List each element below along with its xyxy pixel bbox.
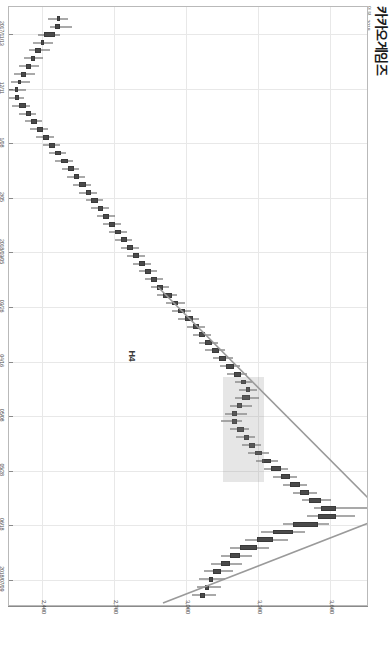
candlestick[interactable] bbox=[8, 237, 367, 242]
candlestick[interactable] bbox=[8, 577, 367, 582]
candlestick[interactable] bbox=[8, 72, 367, 77]
candlestick[interactable] bbox=[8, 230, 367, 235]
candlestick[interactable] bbox=[8, 151, 367, 156]
candlestick[interactable] bbox=[8, 364, 367, 369]
candlestick[interactable] bbox=[8, 474, 367, 479]
candlestick[interactable] bbox=[8, 119, 367, 124]
candle-body bbox=[68, 166, 74, 171]
candlestick[interactable] bbox=[8, 332, 367, 337]
candlestick[interactable] bbox=[8, 466, 367, 471]
candle-body bbox=[281, 474, 291, 479]
candlestick[interactable] bbox=[8, 537, 367, 542]
candlestick[interactable] bbox=[8, 435, 367, 440]
candlestick[interactable] bbox=[8, 64, 367, 69]
candlestick[interactable] bbox=[8, 87, 367, 92]
candlestick[interactable] bbox=[8, 372, 367, 377]
candlestick[interactable] bbox=[8, 32, 367, 37]
candlestick[interactable] bbox=[8, 506, 367, 511]
candle-body bbox=[318, 514, 336, 519]
candlestick[interactable] bbox=[8, 24, 367, 29]
candle-body bbox=[209, 577, 214, 582]
candlestick[interactable] bbox=[8, 395, 367, 400]
candlestick[interactable] bbox=[8, 443, 367, 448]
candlestick[interactable] bbox=[8, 545, 367, 550]
candle-body bbox=[43, 135, 49, 140]
candlestick[interactable] bbox=[8, 261, 367, 266]
candlestick[interactable] bbox=[8, 553, 367, 558]
candlestick[interactable] bbox=[8, 585, 367, 590]
candlestick[interactable] bbox=[8, 522, 367, 527]
candlestick[interactable] bbox=[8, 253, 367, 258]
candlestick[interactable] bbox=[8, 380, 367, 385]
candlestick[interactable] bbox=[8, 80, 367, 85]
candlestick[interactable] bbox=[8, 514, 367, 519]
candlestick[interactable] bbox=[8, 166, 367, 171]
candlestick[interactable] bbox=[8, 143, 367, 148]
candlestick[interactable] bbox=[8, 174, 367, 179]
candle-body bbox=[205, 585, 209, 590]
candlestick[interactable] bbox=[8, 293, 367, 298]
candlestick[interactable] bbox=[8, 277, 367, 282]
candle-body bbox=[309, 498, 321, 503]
candle-body bbox=[151, 277, 157, 282]
candlestick[interactable] bbox=[8, 95, 367, 100]
candlestick[interactable] bbox=[8, 190, 367, 195]
candlestick[interactable] bbox=[8, 348, 367, 353]
candlestick[interactable] bbox=[8, 340, 367, 345]
chart-stage: 카카오게임즈 일봉 · 2018 H43,875.04 최고 2018/04/1… bbox=[0, 0, 392, 672]
candlestick[interactable] bbox=[8, 222, 367, 227]
candlestick[interactable] bbox=[8, 40, 367, 45]
date-tick-label: 12/11 bbox=[0, 82, 5, 94]
candlestick[interactable] bbox=[8, 206, 367, 211]
candlestick[interactable] bbox=[8, 159, 367, 164]
candle-body bbox=[31, 56, 34, 61]
candlestick[interactable] bbox=[8, 411, 367, 416]
candlestick[interactable] bbox=[8, 48, 367, 53]
candlestick[interactable] bbox=[8, 103, 367, 108]
date-tick bbox=[9, 362, 13, 363]
price-tick-label: 2,700 bbox=[113, 600, 119, 614]
candlestick[interactable] bbox=[8, 403, 367, 408]
candlestick[interactable] bbox=[8, 482, 367, 487]
candle-body bbox=[74, 174, 79, 179]
candlestick[interactable] bbox=[8, 419, 367, 424]
candlestick[interactable] bbox=[8, 451, 367, 456]
candlestick[interactable] bbox=[8, 56, 367, 61]
candle-body bbox=[219, 356, 226, 361]
candlestick[interactable] bbox=[8, 387, 367, 392]
candlestick[interactable] bbox=[8, 561, 367, 566]
candle-body bbox=[121, 237, 127, 242]
candlestick[interactable] bbox=[8, 285, 367, 290]
candlestick[interactable] bbox=[8, 427, 367, 432]
date-tick-label: 2017/11/13 bbox=[0, 21, 5, 46]
date-tick-label: 04/16 bbox=[0, 354, 5, 367]
candlestick[interactable] bbox=[8, 214, 367, 219]
consolidation-zone bbox=[223, 377, 264, 482]
candlestick[interactable] bbox=[8, 459, 367, 464]
date-gridline bbox=[9, 362, 367, 363]
candle-body bbox=[199, 332, 205, 337]
candlestick[interactable] bbox=[8, 127, 367, 132]
candlestick[interactable] bbox=[8, 569, 367, 574]
plot-area[interactable]: H43,875.04 최고 2018/04/172,085.2 최저 2018/… bbox=[8, 6, 368, 606]
candlestick[interactable] bbox=[8, 593, 367, 598]
candle-body bbox=[200, 593, 205, 598]
candlestick[interactable] bbox=[8, 16, 367, 21]
candlestick[interactable] bbox=[8, 301, 367, 306]
candle-body bbox=[178, 309, 184, 314]
candlestick[interactable] bbox=[8, 198, 367, 203]
candlestick[interactable] bbox=[8, 316, 367, 321]
candlestick[interactable] bbox=[8, 269, 367, 274]
candlestick[interactable] bbox=[8, 135, 367, 140]
candlestick[interactable] bbox=[8, 490, 367, 495]
candlestick[interactable] bbox=[8, 309, 367, 314]
candlestick[interactable] bbox=[8, 111, 367, 116]
candle-body bbox=[61, 159, 68, 164]
candlestick[interactable] bbox=[8, 498, 367, 503]
candlestick[interactable] bbox=[8, 182, 367, 187]
candlestick[interactable] bbox=[8, 245, 367, 250]
candlestick[interactable] bbox=[8, 530, 367, 535]
candlestick[interactable] bbox=[8, 324, 367, 329]
candlestick[interactable] bbox=[8, 356, 367, 361]
page-title: 카카오게임즈 bbox=[374, 6, 388, 75]
